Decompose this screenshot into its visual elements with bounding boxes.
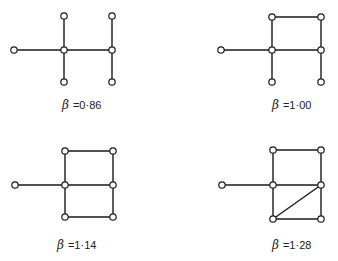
graph-node [62, 214, 68, 220]
graph-node [318, 47, 324, 53]
beta-value: =1·00 [283, 99, 311, 111]
graph-node [318, 79, 324, 85]
graph-node [61, 47, 67, 53]
graph-node [269, 14, 275, 20]
graph-node [110, 214, 116, 220]
panel-a-label: β=0·86 [62, 98, 101, 112]
graph-node [12, 182, 18, 188]
graph-node [269, 47, 275, 53]
graph-node [318, 182, 324, 188]
graph-node [269, 79, 275, 85]
beta-value: =1·14 [68, 239, 96, 251]
graph-node [109, 13, 115, 19]
graph-node [62, 182, 68, 188]
panel-b-label: β=1·00 [272, 98, 311, 112]
graph-node [62, 148, 68, 154]
graph-node [318, 216, 324, 222]
graph-edges [14, 16, 321, 219]
graph-node [109, 47, 115, 53]
beta-value: =1·28 [283, 239, 311, 251]
graph-node [61, 79, 67, 85]
graph-node [270, 216, 276, 222]
graph-node [318, 147, 324, 153]
beta-symbol: β [272, 98, 279, 112]
graph-edge [273, 185, 321, 219]
graph-node [110, 182, 116, 188]
graph-node [11, 47, 17, 53]
graph-node [270, 147, 276, 153]
beta-symbol: β [272, 238, 279, 252]
beta-symbol: β [62, 98, 69, 112]
beta-value: =0·86 [73, 99, 101, 111]
graph-node [109, 79, 115, 85]
graph-nodes [11, 13, 324, 222]
graph-node [218, 47, 224, 53]
graph-node [270, 182, 276, 188]
graph-node [318, 14, 324, 20]
graph-figure [0, 0, 338, 261]
graph-node [61, 13, 67, 19]
graph-node [219, 182, 225, 188]
panel-d-label: β=1·28 [272, 238, 311, 252]
beta-symbol: β [57, 238, 64, 252]
graph-node [110, 148, 116, 154]
panel-c-label: β=1·14 [57, 238, 96, 252]
